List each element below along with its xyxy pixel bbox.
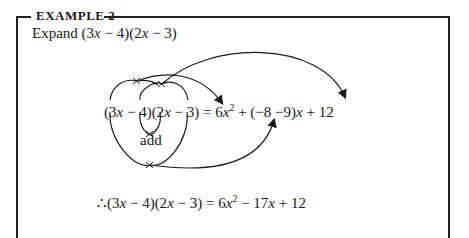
expansion-equation: (3x − 4)(2x − 3) = 6x2 + (−8 −9)x + 12 [104, 102, 334, 121]
arrow-to-6x2 [137, 75, 222, 103]
therefore-symbol: ∴ [97, 195, 107, 211]
arrow-to-middle-term [150, 120, 274, 168]
add-label: add [140, 132, 162, 149]
final-result: ∴(3x − 4)(2x − 3) = 6x2 − 17x + 12 [97, 193, 306, 212]
last-terms-arc [140, 82, 188, 100]
arrow-to-12 [162, 52, 345, 97]
